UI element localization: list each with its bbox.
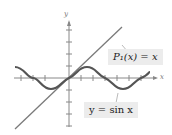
- y-arrow-icon: [67, 20, 71, 26]
- sine-curve-label-text: y = sin x: [89, 104, 133, 115]
- x-axis-label: x: [160, 73, 164, 81]
- taylor-line-label: P₁(x) = x: [108, 49, 163, 65]
- sine-curve-label: y = sin x: [84, 102, 138, 118]
- x-arrow-icon: [153, 76, 158, 80]
- y-axis: [66, 22, 72, 127]
- taylor-line-label-text: P₁(x) = x: [113, 51, 158, 62]
- y-axis-label: y: [64, 10, 68, 18]
